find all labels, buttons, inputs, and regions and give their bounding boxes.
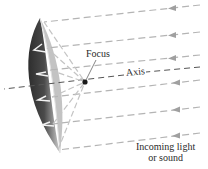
incoming-label-line1: Incoming light — [136, 141, 195, 152]
incoming-label: Incoming light or sound — [136, 141, 195, 163]
focus-label: Focus — [86, 48, 110, 59]
incoming-rays — [44, 5, 200, 150]
incoming-label-line2: or sound — [136, 152, 195, 163]
focus-point — [82, 79, 87, 84]
parabolic-reflector-diagram: Focus Axis Incoming light or sound — [0, 0, 208, 169]
focus-leader-line — [86, 60, 96, 80]
axis-label: Axis — [125, 65, 145, 78]
ray-arrowheads — [168, 5, 180, 139]
